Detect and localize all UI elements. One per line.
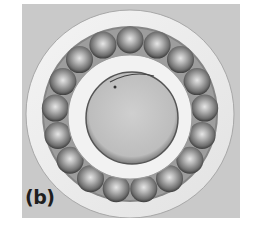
ball	[42, 95, 69, 122]
ball	[66, 46, 93, 73]
ball	[117, 27, 144, 54]
ball	[144, 32, 171, 59]
ball	[167, 46, 194, 73]
bore	[86, 72, 178, 164]
panel-label: (b)	[25, 186, 54, 208]
bearing-photo: (b)	[22, 4, 240, 218]
ball	[89, 32, 116, 59]
ball	[189, 122, 216, 149]
ball	[184, 68, 211, 95]
ball	[191, 95, 218, 122]
bearing-illustration	[22, 4, 240, 218]
ball	[44, 122, 71, 149]
ball	[49, 68, 76, 95]
